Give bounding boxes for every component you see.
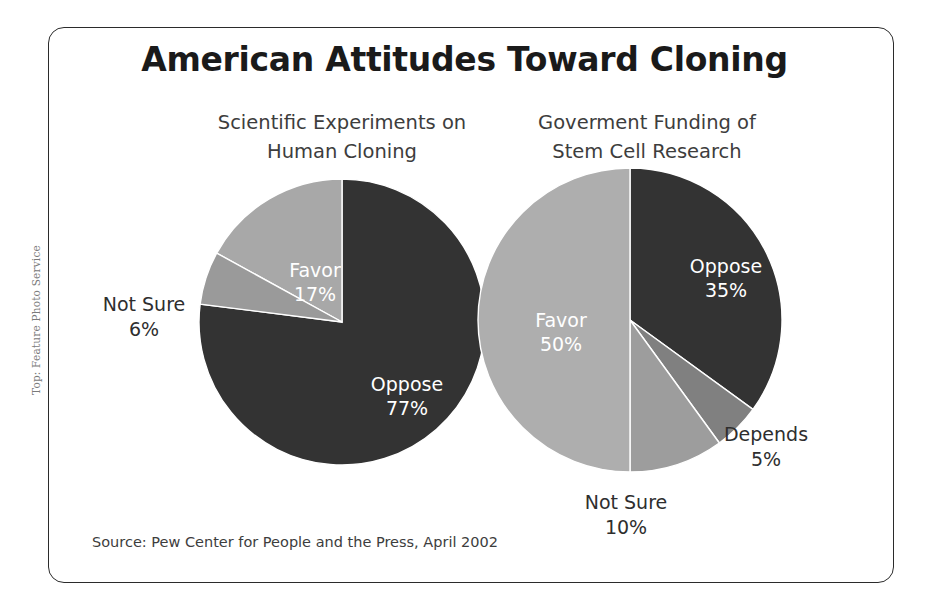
pie-label-not-sure-right-value: 10% (566, 515, 686, 540)
pie-label-not-sure-left-name: Not Sure (84, 292, 204, 317)
pie-label-not-sure-left-value: 6% (84, 317, 204, 342)
chart-subtitle-right-line1: Goverment Funding of (470, 108, 824, 137)
infographic-figure: Top: Feature Photo Service American Atti… (0, 0, 929, 611)
page-title: American Attitudes Toward Cloning (0, 40, 929, 79)
source-note: Source: Pew Center for People and the Pr… (92, 534, 498, 550)
pie-label-not-sure-right: Not Sure 10% (566, 490, 686, 540)
pie-label-depends-right-name: Depends (706, 422, 826, 447)
pie-slice-favor-right (478, 168, 630, 472)
chart-panel-government-funding: Goverment Funding of Stem Cell Research … (470, 108, 890, 490)
pie-label-depends-right: Depends 5% (706, 422, 826, 472)
pie-right-svg (470, 160, 890, 490)
photo-credit: Top: Feature Photo Service (30, 235, 50, 395)
pie-chart-right: Oppose 35% Favor 50% Depends 5% Not Sure… (470, 160, 890, 490)
pie-label-not-sure-left: Not Sure 6% (84, 292, 204, 342)
chart-subtitle-right: Goverment Funding of Stem Cell Research (470, 108, 890, 166)
pie-label-not-sure-right-name: Not Sure (566, 490, 686, 515)
pie-label-depends-right-value: 5% (706, 447, 826, 472)
